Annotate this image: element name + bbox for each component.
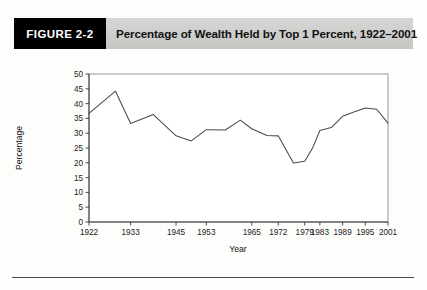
y-tick-label: 15 [74, 174, 84, 183]
chart-area: 05101520253035404550 1922193319451953196… [0, 56, 427, 256]
y-tick-label: 45 [74, 85, 84, 94]
y-tick-label: 5 [78, 203, 83, 212]
y-tick-label: 10 [74, 188, 84, 197]
y-axis: 05101520253035404550 [74, 70, 89, 227]
footer-divider [12, 277, 414, 278]
figure-number-tag: FIGURE 2-2 [14, 18, 106, 49]
y-tick-label: 20 [74, 159, 84, 168]
y-axis-title: Percentage [14, 126, 24, 170]
x-tick-label: 1965 [243, 228, 262, 237]
x-axis: 1922193319451953196519721979198319891995… [80, 222, 398, 237]
x-tick-label: 1933 [122, 228, 141, 237]
x-tick-label: 1995 [356, 228, 375, 237]
x-tick-label: 1989 [333, 228, 352, 237]
line-chart: 05101520253035404550 1922193319451953196… [0, 56, 427, 256]
y-tick-label: 25 [74, 144, 84, 153]
x-tick-label: 1972 [269, 228, 288, 237]
plot-frame [89, 74, 388, 222]
figure-title: Percentage of Wealth Held by Top 1 Perce… [116, 18, 417, 49]
x-axis-title: Year [229, 244, 247, 254]
y-tick-label: 40 [74, 100, 84, 109]
y-tick-label: 35 [74, 114, 84, 123]
y-tick-label: 50 [74, 70, 84, 79]
x-tick-label: 2001 [379, 228, 398, 237]
x-tick-label: 1922 [80, 228, 99, 237]
y-tick-label: 0 [78, 218, 83, 227]
x-tick-label: 1953 [197, 228, 216, 237]
figure-container: FIGURE 2-2 Percentage of Wealth Held by … [0, 0, 427, 290]
y-tick-label: 30 [74, 129, 84, 138]
x-tick-label: 1945 [167, 228, 186, 237]
x-tick-label: 1983 [311, 228, 330, 237]
